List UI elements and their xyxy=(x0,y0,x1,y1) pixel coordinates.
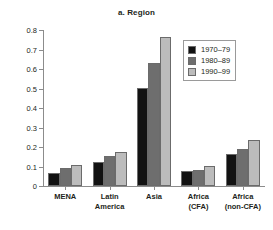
x-tick-label: Africa(CFA) xyxy=(176,192,220,212)
bar xyxy=(204,166,215,186)
legend-item: 1980–89 xyxy=(188,55,230,66)
y-tick-label: 0.8 xyxy=(27,26,37,35)
y-tick-label: 0.1 xyxy=(27,162,37,171)
x-tick-mark xyxy=(198,186,199,190)
region-bar-chart: a. Region 00.10.20.30.40.50.60.70.8 MENA… xyxy=(0,0,273,230)
bar xyxy=(193,170,204,186)
bar xyxy=(137,88,148,186)
legend-label: 1980–89 xyxy=(201,56,230,65)
y-tick-label: 0.5 xyxy=(27,84,37,93)
y-tick-label: 0 xyxy=(33,182,37,191)
legend-swatch xyxy=(188,46,196,54)
bar-group xyxy=(87,30,131,186)
x-tick-label: Africa(non-CFA) xyxy=(221,192,265,212)
x-tick-label: MENA xyxy=(43,192,87,212)
x-tick-label: LatinAmerica xyxy=(87,192,131,212)
legend-swatch xyxy=(188,68,196,76)
chart-title: a. Region xyxy=(0,8,273,17)
legend-item: 1970–79 xyxy=(188,44,230,55)
bar-stack xyxy=(137,30,171,186)
bar xyxy=(60,168,71,186)
y-tick-label: 0.2 xyxy=(27,143,37,152)
bar xyxy=(181,171,192,186)
bar xyxy=(160,37,171,186)
bar xyxy=(148,63,159,186)
x-tick-mark xyxy=(154,186,155,190)
bar xyxy=(104,156,115,186)
bar-group xyxy=(43,30,87,186)
bar xyxy=(71,165,82,186)
bar-stack xyxy=(93,30,127,186)
y-tick-label: 0.7 xyxy=(27,45,37,54)
bar xyxy=(48,173,59,186)
y-tick-label: 0.6 xyxy=(27,65,37,74)
bar xyxy=(248,140,259,186)
y-tick-label: 0.3 xyxy=(27,123,37,132)
bar-stack xyxy=(48,30,82,186)
x-tick-label: Asia xyxy=(132,192,176,212)
x-axis-labels: MENALatinAmericaAsiaAfrica(CFA)Africa(no… xyxy=(43,192,265,212)
bar-group xyxy=(132,30,176,186)
x-tick-mark xyxy=(65,186,66,190)
legend-label: 1970–79 xyxy=(201,45,230,54)
bar xyxy=(226,154,237,186)
chart-legend: 1970–791980–891990–99 xyxy=(183,40,236,81)
y-tick-label: 0.4 xyxy=(27,104,37,113)
x-tick-mark xyxy=(110,186,111,190)
bar xyxy=(93,162,104,186)
legend-swatch xyxy=(188,57,196,65)
x-tick-mark xyxy=(243,186,244,190)
legend-item: 1990–99 xyxy=(188,66,230,77)
bar xyxy=(115,152,126,186)
y-tick-mark xyxy=(39,186,43,187)
bar xyxy=(237,149,248,186)
legend-label: 1990–99 xyxy=(201,67,230,76)
